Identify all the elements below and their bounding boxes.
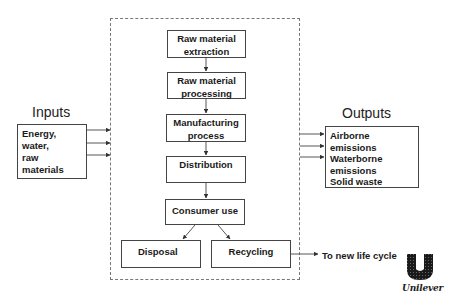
- unilever-u-logo-icon: [406, 253, 434, 281]
- unilever-wordmark: Unilever: [402, 283, 443, 293]
- connector-arrows: [0, 0, 458, 306]
